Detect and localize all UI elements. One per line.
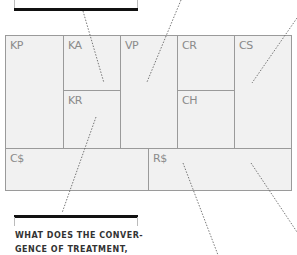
leader-line-cs [252,18,297,83]
leader-lines [0,0,297,255]
leader-line-vp [147,0,181,82]
leader-line-rev-2 [251,163,297,232]
leader-line-ka [83,11,104,83]
leader-line-rev-1 [183,163,218,255]
leader-line-kr [62,117,96,213]
